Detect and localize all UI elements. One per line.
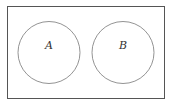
venn-diagram: A B: [0, 0, 171, 101]
set-b-circle: [92, 22, 154, 84]
set-a-circle: [18, 22, 80, 84]
set-a-label: A: [44, 39, 53, 52]
set-b-label: B: [118, 39, 127, 52]
universal-set-rectangle: [8, 7, 165, 99]
